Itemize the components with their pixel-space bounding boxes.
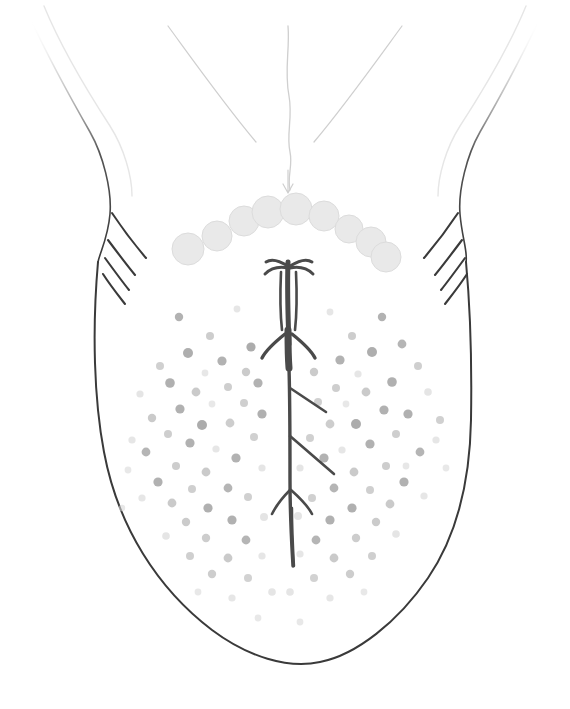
fungiform-papilla: [330, 484, 339, 493]
fungiform-papilla: [255, 615, 262, 622]
fungiform-papilla: [392, 430, 400, 438]
fungiform-papilla: [379, 405, 388, 414]
fungiform-papilla: [338, 446, 345, 453]
fungiform-papilla: [136, 390, 143, 397]
fungiform-papilla: [335, 355, 344, 364]
fungiform-papilla: [175, 404, 184, 413]
fungiform-papilla: [362, 388, 371, 397]
fungiform-papilla: [182, 518, 190, 526]
fungiform-papilla: [224, 554, 233, 563]
fungiform-papilla: [350, 468, 359, 477]
fungiform-papilla: [202, 370, 209, 377]
fungiform-papilla: [148, 414, 156, 422]
fungiform-papilla: [387, 377, 397, 387]
fungiform-papilla: [119, 505, 125, 511]
fungiform-papilla: [327, 309, 334, 316]
fungiform-papilla: [188, 485, 196, 493]
fungiform-papilla: [231, 453, 240, 462]
fungiform-papilla: [392, 530, 400, 538]
fungiform-papilla: [175, 313, 183, 321]
fungiform-papilla: [432, 436, 439, 443]
fungiform-papilla: [162, 532, 170, 540]
fungiform-papilla: [398, 340, 407, 349]
fungiform-papilla: [212, 445, 219, 452]
fungiform-papilla: [347, 503, 356, 512]
fungiform-papilla: [197, 420, 207, 430]
fungiform-papilla: [153, 477, 162, 486]
fungiform-papilla: [208, 570, 216, 578]
fungiform-papilla: [436, 416, 444, 424]
fungiform-papilla: [156, 362, 164, 370]
fungiform-papilla: [351, 419, 361, 429]
fungiform-papilla: [209, 401, 216, 408]
fungiform-papilla: [416, 448, 425, 457]
fungiform-papilla: [354, 370, 361, 377]
fungiform-papilla: [246, 342, 255, 351]
fungiform-papilla: [443, 465, 450, 472]
fungiform-papilla: [365, 439, 374, 448]
fungiform-papilla: [228, 594, 235, 601]
fungiform-papilla: [296, 464, 303, 471]
fungiform-papilla: [424, 388, 432, 396]
fungiform-papilla: [186, 552, 194, 560]
fungiform-papilla: [224, 383, 232, 391]
fungiform-papilla: [332, 384, 340, 392]
fungiform-papilla: [202, 534, 210, 542]
fungiform-papilla: [172, 462, 180, 470]
fungiform-papilla: [368, 552, 376, 560]
fungiform-papilla: [286, 588, 294, 596]
fungiform-papilla: [253, 378, 262, 387]
fungiform-papilla: [192, 388, 201, 397]
fungiform-papilla: [224, 484, 233, 493]
fungiform-papilla: [268, 588, 276, 596]
fungiform-papilla: [330, 554, 339, 563]
fungiform-papilla: [326, 420, 335, 429]
circumvallate-papilla-1: [172, 233, 204, 265]
fungiform-papilla: [183, 348, 193, 358]
fungiform-papilla: [244, 493, 252, 501]
fungiform-papilla: [403, 409, 412, 418]
fungiform-papilla: [348, 332, 356, 340]
fungiform-papilla: [125, 467, 132, 474]
fungiform-papilla: [128, 436, 135, 443]
fungiform-papilla: [361, 589, 368, 596]
fungiform-papilla: [242, 536, 251, 545]
fungiform-papilla: [240, 399, 248, 407]
fungiform-papilla: [164, 430, 172, 438]
fungiform-papilla: [346, 570, 354, 578]
fungiform-papilla: [296, 550, 303, 557]
fungiform-papilla: [234, 306, 241, 313]
tongue-dorsum-figure: Dorsal surface of the tongue: [0, 0, 570, 709]
fungiform-papilla: [403, 463, 410, 470]
fungiform-papilla: [420, 492, 427, 499]
fungiform-papilla: [367, 347, 377, 357]
fungiform-papilla: [258, 464, 265, 471]
fungiform-papilla: [325, 515, 334, 524]
circumvallate-papilla-9: [371, 242, 401, 272]
fungiform-papilla: [168, 499, 177, 508]
fungiform-papilla: [343, 401, 350, 408]
fungiform-papilla: [308, 494, 316, 502]
circumvallate-papilla-5: [280, 193, 312, 225]
fungiform-papilla: [257, 409, 266, 418]
fungiform-papilla: [138, 494, 145, 501]
fungiform-papilla: [382, 462, 390, 470]
fungiform-papilla: [352, 534, 360, 542]
fungiform-papilla: [217, 356, 226, 365]
fungiform-papilla: [242, 368, 250, 376]
fungiform-papilla: [310, 574, 318, 582]
fungiform-papilla: [372, 518, 380, 526]
illustration-page: Dorsal surface of the tongue: [0, 0, 570, 709]
fungiform-papilla: [414, 362, 422, 370]
fungiform-papilla: [306, 434, 314, 442]
circumvallate-papilla-6: [309, 201, 339, 231]
fungiform-papilla: [312, 536, 321, 545]
fungiform-papilla: [294, 512, 302, 520]
fungiform-papilla: [244, 574, 252, 582]
fungiform-papilla: [386, 500, 395, 509]
fungiform-papilla: [326, 594, 333, 601]
fungiform-papilla: [226, 419, 235, 428]
fungiform-papilla: [310, 368, 318, 376]
fungiform-papilla: [378, 313, 386, 321]
fungiform-papilla: [399, 477, 408, 486]
